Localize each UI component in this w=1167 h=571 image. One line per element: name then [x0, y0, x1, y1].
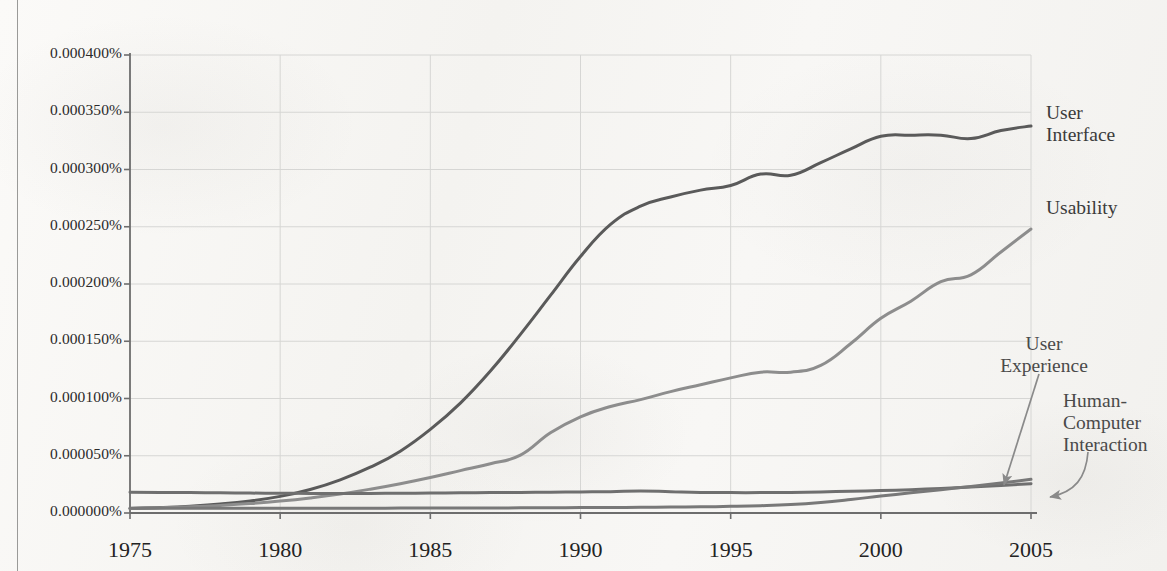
series-label-user-experience: User Experience — [986, 333, 1102, 377]
series-label-user-interface: User Interface — [1046, 102, 1115, 146]
series-label-human-computer-interaction: Human- Computer Interaction — [1063, 390, 1147, 455]
y-axis-tick-label: 0.000000% — [50, 502, 122, 520]
series-label-hci-line3: Interaction — [1063, 434, 1147, 456]
x-axis-tick-label: 1985 — [408, 537, 452, 563]
x-axis-tick-label: 2000 — [859, 537, 903, 563]
x-axis-tick-label: 1995 — [709, 537, 753, 563]
y-axis-tick-label: 0.000050% — [50, 445, 122, 463]
x-axis-tick-label: 1975 — [108, 537, 152, 563]
y-axis-tick-label: 0.000350% — [50, 101, 122, 119]
y-axis-tick-label: 0.000150% — [50, 330, 122, 348]
series-label-user-interface-line1: User — [1046, 102, 1115, 124]
y-axis-tick-label: 0.000200% — [50, 273, 122, 291]
ngram-line-chart — [0, 0, 1167, 571]
human-computer-interaction-arrow — [1050, 452, 1088, 497]
series-label-usability-text: Usability — [1046, 197, 1118, 219]
series-label-usability: Usability — [1046, 197, 1118, 219]
gridlines — [130, 55, 1031, 513]
series-label-hci-line1: Human- — [1063, 390, 1147, 412]
user-experience-arrow — [1004, 374, 1039, 485]
series-label-user-experience-line2: Experience — [986, 355, 1102, 377]
series-label-user-experience-line1: User — [986, 333, 1102, 355]
x-axis-tick-label: 2005 — [1009, 537, 1053, 563]
y-axis-tick-label: 0.000100% — [50, 388, 122, 406]
y-axis-tick-label: 0.000300% — [50, 159, 122, 177]
series-label-hci-line2: Computer — [1063, 412, 1147, 434]
y-axis-tick-label: 0.000250% — [50, 216, 122, 234]
x-axis-tick-label: 1990 — [559, 537, 603, 563]
chart-page: 0.000400%0.000350%0.000300%0.000250%0.00… — [0, 0, 1167, 571]
x-axis-tick-label: 1980 — [258, 537, 302, 563]
y-axis-tick-label: 0.000400% — [50, 44, 122, 62]
series-label-user-interface-line2: Interface — [1046, 124, 1115, 146]
